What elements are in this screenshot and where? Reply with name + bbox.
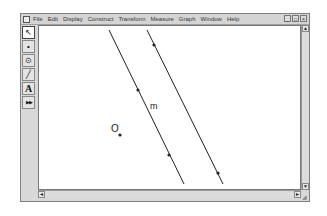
minimize-button[interactable]: _ [284, 15, 291, 22]
menu-window[interactable]: Window [201, 16, 222, 22]
menu-transform[interactable]: Transform [118, 16, 145, 22]
menu-help[interactable]: Help [227, 16, 239, 22]
line-m-label[interactable]: m [150, 101, 158, 111]
compass-tool[interactable]: ⊙ [22, 54, 35, 67]
scroll-left-button[interactable]: ◄ [38, 191, 45, 198]
selection-arrow-tool[interactable]: ↖ [22, 26, 35, 39]
vertical-scrollbar[interactable]: ▲ ▼ [301, 25, 309, 190]
maximize-button[interactable]: □ [292, 15, 299, 22]
menu-file[interactable]: File [33, 16, 43, 22]
menu-display[interactable]: Display [63, 16, 83, 22]
scroll-down-button[interactable]: ▼ [302, 183, 309, 190]
sketch-canvas[interactable]: m O [38, 25, 301, 190]
scroll-right-button[interactable]: ► [294, 191, 301, 198]
point-o-label[interactable]: O [111, 123, 119, 134]
point-on-m-upper[interactable] [136, 88, 139, 91]
geometry-drawing [39, 26, 302, 191]
toolbox: ↖ • ⊙ ╱ A ▶▶ [22, 26, 36, 110]
parallel-line[interactable] [147, 30, 223, 184]
straightedge-tool[interactable]: ╱ [22, 68, 35, 81]
resize-grip-icon[interactable]: ◢ [302, 194, 308, 200]
point-on-parallel-upper[interactable] [152, 43, 155, 46]
scroll-up-button[interactable]: ▲ [302, 25, 309, 32]
menu-measure[interactable]: Measure [151, 16, 174, 22]
custom-tool[interactable]: ▶▶ [22, 96, 35, 109]
close-button[interactable]: × [300, 15, 307, 22]
window-controls: _ □ × [284, 15, 307, 22]
menu-graph[interactable]: Graph [179, 16, 196, 22]
point-tool[interactable]: • [22, 40, 35, 53]
point-on-parallel-lower[interactable] [216, 171, 219, 174]
menu-construct[interactable]: Construct [88, 16, 114, 22]
horizontal-scrollbar[interactable]: ◄ ► [38, 190, 301, 198]
menu-edit[interactable]: Edit [48, 16, 58, 22]
text-tool[interactable]: A [22, 82, 35, 95]
app-icon[interactable] [23, 16, 30, 23]
point-on-m-lower[interactable] [167, 153, 170, 156]
menu-bar: File Edit Display Construct Transform Me… [21, 14, 309, 25]
line-m[interactable] [109, 30, 184, 184]
sketchpad-window: File Edit Display Construct Transform Me… [20, 13, 310, 202]
